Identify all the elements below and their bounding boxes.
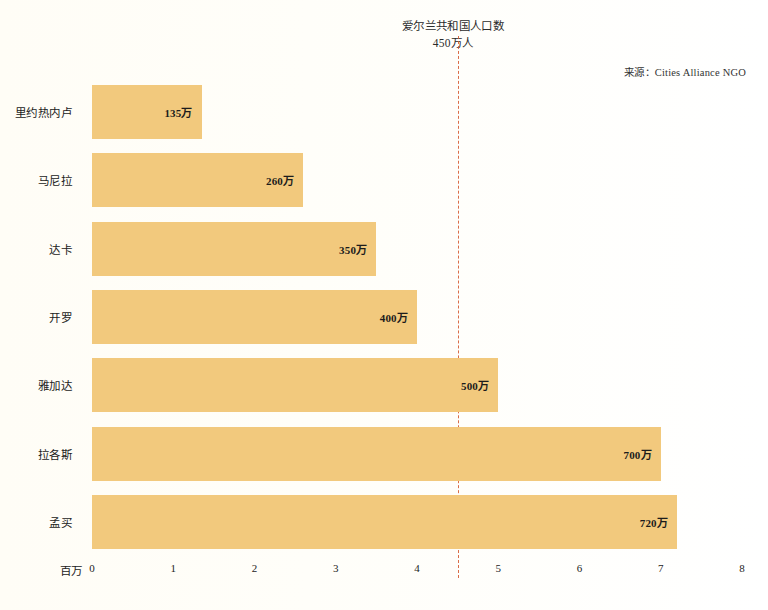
bar-row: 孟买720万 [92, 495, 742, 549]
x-axis-tick: 1 [171, 562, 177, 574]
bar-row: 达卡350万 [92, 222, 742, 276]
category-label: 里约热内卢 [15, 104, 72, 120]
bar[interactable]: 700万 [92, 427, 661, 481]
bar[interactable]: 500万 [92, 358, 498, 412]
x-axis-tick: 6 [577, 562, 583, 574]
category-label: 达卡 [49, 241, 72, 257]
x-axis-tick: 7 [658, 562, 664, 574]
bar-value-label: 400万 [380, 309, 408, 325]
bar-row: 拉各斯700万 [92, 427, 742, 481]
bar-chart: 爱尔兰共和国人口数 450万人 来源：Cities Alliance NGO 里… [0, 0, 768, 610]
bar-row: 雅加达500万 [92, 358, 742, 412]
bar-value-label: 720万 [640, 514, 668, 530]
bar-row: 开罗400万 [92, 290, 742, 344]
bar-row: 马尼拉260万 [92, 153, 742, 207]
category-label: 开罗 [49, 309, 72, 325]
bar[interactable]: 720万 [92, 495, 677, 549]
x-axis-tick: 8 [739, 562, 745, 574]
bar-row: 里约热内卢135万 [92, 85, 742, 139]
bar[interactable]: 135万 [92, 85, 202, 139]
category-label: 拉各斯 [38, 446, 72, 462]
plot-area: 里约热内卢135万马尼拉260万达卡350万开罗400万雅加达500万拉各斯70… [92, 78, 742, 556]
bar-value-label: 500万 [461, 377, 489, 393]
x-axis: 012345678 [92, 562, 742, 586]
bar[interactable]: 350万 [92, 222, 376, 276]
x-axis-tick: 3 [333, 562, 339, 574]
bar-value-label: 260万 [266, 172, 294, 188]
bar-value-label: 135万 [164, 104, 192, 120]
reference-annotation-value: 450万人 [368, 35, 538, 52]
bar[interactable]: 400万 [92, 290, 417, 344]
category-label: 孟买 [49, 514, 72, 530]
x-axis-unit-label: 百万 [60, 562, 83, 578]
bar[interactable]: 260万 [92, 153, 303, 207]
source-note: 来源：Cities Alliance NGO [624, 64, 746, 79]
reference-annotation: 爱尔兰共和国人口数 450万人 [368, 18, 538, 51]
bar-value-label: 350万 [339, 241, 367, 257]
bar-value-label: 700万 [623, 446, 651, 462]
x-axis-tick: 5 [496, 562, 502, 574]
x-axis-tick: 4 [414, 562, 420, 574]
category-label: 马尼拉 [38, 172, 72, 188]
x-axis-tick: 0 [89, 562, 95, 574]
reference-annotation-title: 爱尔兰共和国人口数 [402, 20, 504, 32]
x-axis-tick: 2 [252, 562, 258, 574]
category-label: 雅加达 [38, 377, 72, 393]
